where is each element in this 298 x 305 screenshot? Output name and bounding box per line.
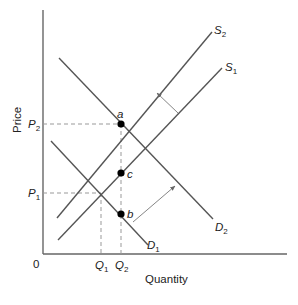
point-a-label: a xyxy=(117,108,123,120)
s2-label: S2 xyxy=(214,24,227,39)
supply-curve-s2 xyxy=(57,32,212,218)
y-axis-label: Price xyxy=(11,107,23,133)
q2-label: Q2 xyxy=(115,259,129,274)
d2-label: D2 xyxy=(215,221,228,236)
point-c xyxy=(117,169,124,176)
point-b-label: b xyxy=(127,208,134,220)
d1-label: D1 xyxy=(147,239,160,254)
p1-label: P1 xyxy=(28,187,41,202)
q1-label: Q1 xyxy=(95,259,109,274)
x-axis-label: Quantity xyxy=(145,273,188,285)
origin-label: 0 xyxy=(33,258,39,270)
s1-label: S1 xyxy=(225,61,238,76)
supply-curve-s1 xyxy=(58,68,222,240)
point-b xyxy=(117,210,124,217)
supply-shift-arrow xyxy=(157,93,178,113)
demand-curve-d2 xyxy=(59,58,213,219)
demand-shift-arrow xyxy=(133,186,175,222)
supply-demand-diagram: a c b S2 S1 D2 D1 P2 P1 Q1 Q2 0 Quantity… xyxy=(0,0,298,305)
p2-label: P2 xyxy=(28,118,41,133)
point-a xyxy=(117,120,124,127)
point-c-label: c xyxy=(127,168,133,180)
